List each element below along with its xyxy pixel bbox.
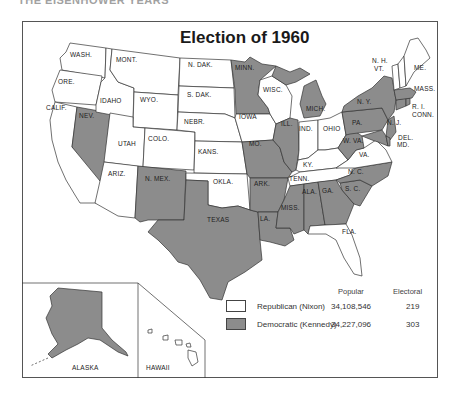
label-la: LA. xyxy=(260,215,270,222)
label-md: MD. xyxy=(397,141,410,148)
inset-border xyxy=(22,283,205,378)
legend-header-electoral: Electoral xyxy=(393,287,422,296)
state-mass xyxy=(394,88,416,100)
democratic-swatch xyxy=(226,318,246,330)
state-hawaii xyxy=(148,329,198,366)
label-wisc: WISC. xyxy=(263,86,283,93)
label-calif: CALIF. xyxy=(46,104,67,111)
republican-swatch xyxy=(226,300,246,312)
state-me xyxy=(404,38,430,86)
alaska-aleutians xyxy=(30,358,48,366)
legend-electoral: 219 xyxy=(406,302,419,311)
label-ohio: OHIO xyxy=(323,125,340,132)
label-pa: PA. xyxy=(352,119,363,126)
label-iowa: IOWA xyxy=(239,113,257,120)
label-ore: ORE. xyxy=(58,78,75,85)
label-ri: R. I. xyxy=(412,103,425,110)
label-mass: MASS. xyxy=(414,85,435,92)
label-del: DEL. xyxy=(398,134,413,141)
label-okla: OKLA. xyxy=(213,178,233,185)
us-election-map: WASH. ORE. CALIF. NEV. IDAHO MONT. WYO. … xyxy=(0,0,459,401)
legend-header-popular: Popular xyxy=(338,287,364,296)
state-kans xyxy=(194,141,247,174)
label-ariz: ARIZ. xyxy=(108,170,126,177)
state-ore xyxy=(52,70,102,105)
label-fla: FLA. xyxy=(342,228,357,235)
label-va: VA. xyxy=(359,151,370,158)
label-ala: ALA. xyxy=(302,188,317,195)
label-wash: WASH. xyxy=(70,51,92,58)
label-nev: NEV. xyxy=(79,112,94,119)
label-kans: KANS. xyxy=(198,148,219,155)
label-alaska: ALASKA xyxy=(72,364,99,371)
label-nebr: NEBR. xyxy=(184,118,205,125)
label-vt: VT. xyxy=(374,65,384,72)
label-miss: MISS. xyxy=(281,204,300,211)
legend-party: Democratic (Kennedy) xyxy=(257,320,337,329)
label-conn: CONN. xyxy=(412,111,434,118)
label-nj: N. J. xyxy=(387,119,401,126)
legend-popular: 34,227,096 xyxy=(331,320,371,329)
label-wva: W. VA. xyxy=(343,137,364,144)
legend-electoral: 303 xyxy=(406,320,419,329)
label-me: ME. xyxy=(414,64,426,71)
label-colo: COLO. xyxy=(148,135,169,142)
label-tenn: TENN. xyxy=(289,175,310,182)
legend-row-democratic: Democratic (Kennedy) 34,227,096 303 xyxy=(226,318,426,332)
label-wyo: WYO. xyxy=(140,96,158,103)
label-minn: MINN. xyxy=(235,64,254,71)
label-nh: N. H. xyxy=(372,57,388,64)
label-sdak: S. DAK. xyxy=(187,91,212,98)
label-ill: ILL. xyxy=(281,120,293,127)
state-ri xyxy=(406,98,410,106)
label-nc: N. C. xyxy=(348,168,364,175)
legend-party: Republican (Nixon) xyxy=(257,302,325,311)
label-idaho: IDAHO xyxy=(100,97,122,104)
label-ind: IND. xyxy=(299,125,313,132)
legend-row-republican: Republican (Nixon) 34,108,546 219 xyxy=(226,300,426,314)
label-mo: MO. xyxy=(249,140,262,147)
label-mont: MONT. xyxy=(116,56,137,63)
label-texas: TEXAS xyxy=(207,216,230,223)
label-utah: UTAH xyxy=(118,140,136,147)
label-ga: GA. xyxy=(322,187,334,194)
label-nmex: N. MEX. xyxy=(145,175,171,182)
label-hawaii: HAWAII xyxy=(146,364,170,371)
label-mich: MICH. xyxy=(306,105,325,112)
state-alaska xyxy=(46,288,128,358)
label-ky: KY. xyxy=(303,161,313,168)
legend-popular: 34,108,546 xyxy=(331,302,371,311)
label-sc: S. C. xyxy=(345,185,360,192)
label-ny: N. Y. xyxy=(357,98,372,105)
label-ndak: N. DAK. xyxy=(188,61,213,68)
state-mich xyxy=(300,80,326,118)
label-ark: ARK. xyxy=(254,180,270,187)
